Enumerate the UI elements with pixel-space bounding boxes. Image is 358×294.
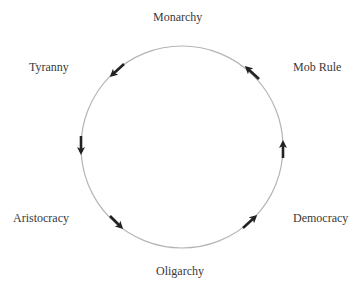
arrow-icon-mobrule-monarchy [247, 68, 259, 79]
node-label-monarchy: Monarchy [153, 10, 202, 25]
node-label-oligarchy: Oligarchy [156, 264, 204, 279]
arrow-icon-aristocracy-oligarchy [110, 216, 121, 227]
node-label-mob-rule: Mob Rule [293, 60, 341, 75]
arrow-icon-monarchy-tyranny [112, 64, 124, 75]
node-label-democracy: Democracy [293, 211, 348, 226]
node-label-aristocracy: Aristocracy [13, 211, 69, 226]
arrow-icon-oligarchy-democracy [243, 217, 255, 228]
cycle-diagram [0, 0, 358, 294]
node-label-tyranny: Tyranny [29, 60, 69, 75]
